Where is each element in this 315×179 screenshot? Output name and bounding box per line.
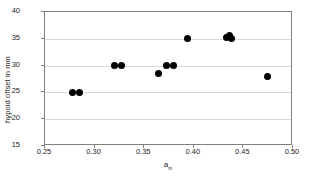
data-point (170, 62, 177, 69)
data-point (228, 35, 235, 42)
data-point (155, 70, 162, 77)
gridline-y-35 (45, 39, 291, 40)
data-point (264, 73, 271, 80)
data-point (111, 62, 118, 69)
x-tick-label-0.35: 0.35 (136, 147, 151, 156)
data-point (184, 35, 191, 42)
data-point (76, 89, 83, 96)
x-tick-label-0.30: 0.30 (86, 147, 101, 156)
x-axis-tick-labels: 0.250.300.350.400.450.50 (0, 147, 315, 161)
y-tick-label-25: 25 (12, 87, 20, 95)
y-tick-label-30: 30 (12, 61, 20, 69)
x-axis-title-subscript: m (168, 165, 172, 171)
x-tick-label-0.25: 0.25 (37, 147, 52, 156)
plot-area (44, 11, 292, 145)
scatter-chart: hypoid offset in mm 152025303540 0.250.3… (0, 0, 315, 179)
gridline-y-20 (45, 119, 291, 120)
x-tick-label-0.50: 0.50 (285, 147, 300, 156)
data-point (163, 62, 170, 69)
y-tick-label-20: 20 (12, 114, 20, 122)
data-point (69, 89, 76, 96)
data-point (118, 62, 125, 69)
x-tick-label-0.40: 0.40 (185, 147, 200, 156)
x-tick-label-0.45: 0.45 (235, 147, 250, 156)
y-tick-label-40: 40 (12, 7, 20, 15)
x-axis-title: am (44, 160, 292, 171)
y-tick-label-35: 35 (12, 34, 20, 42)
